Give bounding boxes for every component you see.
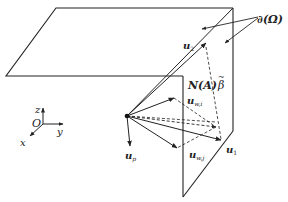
coordinate-axes: z O y x: [20, 104, 63, 148]
dashed-lines: [127, 47, 221, 148]
boundary-label: ∂(Ω): [257, 13, 283, 26]
boundary-arrows: [202, 17, 258, 43]
u2-label: u2: [183, 40, 194, 52]
beta-tilde: ~: [218, 73, 225, 82]
vector-u1: [127, 116, 221, 140]
z-axis-label: z: [34, 104, 41, 115]
vector-up: [127, 116, 130, 146]
vector-uwi: [127, 98, 174, 116]
edge-line: [127, 8, 233, 116]
uwj-label: uw,j: [189, 149, 205, 162]
y-axis-label: y: [56, 126, 63, 137]
x-axis-label: x: [20, 137, 26, 148]
up-label: up: [125, 150, 136, 163]
uwi-label: uw,i: [187, 95, 203, 107]
diagram-canvas: ∂(Ω) u2 N(A) β ~ uw,i uw,j u1 up z O y x: [0, 0, 288, 202]
base-point: [125, 114, 130, 119]
u1-label: u1: [226, 144, 237, 156]
origin-label: O: [32, 117, 41, 130]
normal-cone-label: N(A): [187, 79, 217, 92]
